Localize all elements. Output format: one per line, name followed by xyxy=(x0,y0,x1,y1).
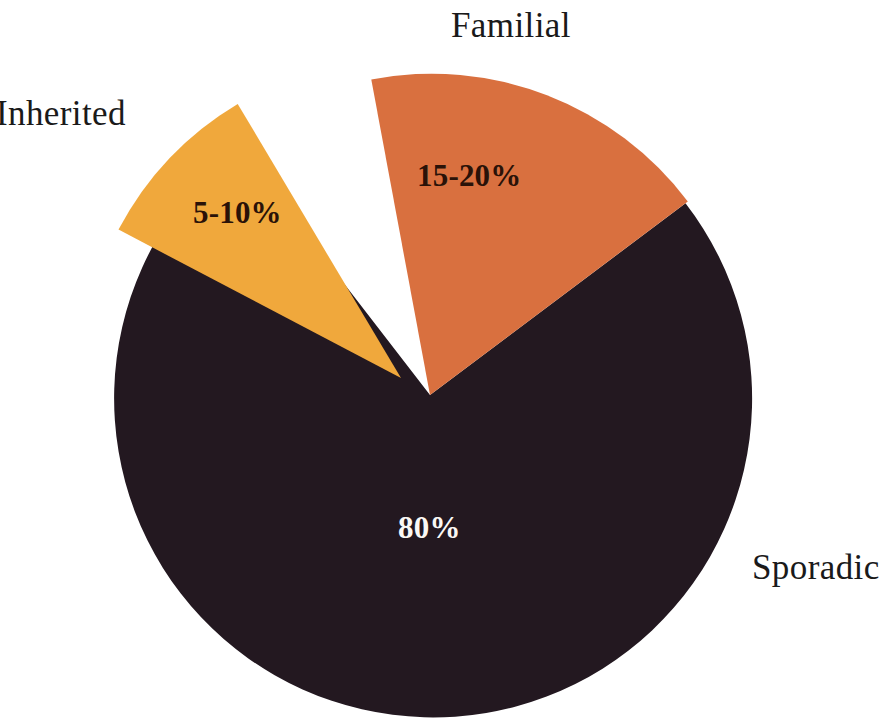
category-label-sporadic: Sporadic xyxy=(752,550,880,585)
slice-value-inherited: 5-10% xyxy=(193,197,282,228)
pie-chart-graphic xyxy=(0,0,889,728)
category-label-inherited: Inherited xyxy=(0,96,126,131)
category-label-familial: Familial xyxy=(451,8,571,43)
pie-chart-figure: Familial Inherited Sporadic 15-20% 5-10%… xyxy=(0,0,889,728)
slice-value-familial: 15-20% xyxy=(417,160,522,191)
slice-value-sporadic: 80% xyxy=(398,512,461,543)
